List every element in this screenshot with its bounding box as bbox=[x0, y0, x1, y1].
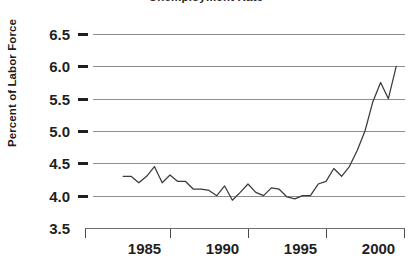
y-tick-labels: 6.56.05.55.04.54.03.5 bbox=[49, 26, 70, 237]
x-tick-labels: 1985199019952000 bbox=[128, 240, 395, 257]
gridlines bbox=[93, 35, 405, 197]
line-chart-plot: 6.56.05.55.04.54.03.5 1985199019952000 bbox=[0, 0, 412, 266]
data-series bbox=[123, 66, 396, 200]
y-tick-label: 5.0 bbox=[49, 123, 70, 140]
x-axis bbox=[85, 229, 405, 238]
y-tick-marks bbox=[78, 35, 88, 197]
y-tick-label: 5.5 bbox=[49, 91, 70, 108]
x-tick-label: 2000 bbox=[362, 240, 395, 257]
y-tick-label: 3.5 bbox=[49, 220, 70, 237]
y-tick-label: 4.0 bbox=[49, 188, 70, 205]
y-tick-label: 6.0 bbox=[49, 58, 70, 75]
chart-container: Unemployment Rate Percent of Labor Force… bbox=[0, 0, 412, 266]
x-tick-label: 1990 bbox=[206, 240, 239, 257]
data-line bbox=[123, 66, 396, 200]
y-tick-label: 6.5 bbox=[49, 26, 70, 43]
y-tick-label: 4.5 bbox=[49, 155, 70, 172]
x-tick-label: 1985 bbox=[128, 240, 161, 257]
x-tick-label: 1995 bbox=[284, 240, 317, 257]
